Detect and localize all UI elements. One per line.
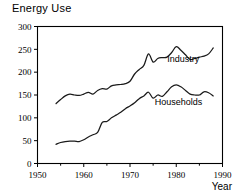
x-tick-label: 1960 — [75, 170, 94, 180]
y-tick-label: 150 — [18, 90, 32, 100]
x-tick-label: 1970 — [121, 170, 140, 180]
series-annotation-households: Households — [155, 97, 203, 107]
x-tick-label: 1990 — [214, 170, 233, 180]
y-tick-label: 100 — [18, 113, 32, 123]
y-tick-label: 0 — [27, 159, 32, 169]
chart-canvas: 050100150200250300 19501960197019801990 … — [0, 0, 240, 193]
x-tick-label: 1950 — [29, 170, 48, 180]
y-tick-label: 300 — [18, 22, 32, 32]
y-tick-label: 200 — [18, 67, 32, 77]
x-axis-title: Year — [212, 181, 233, 192]
series-annotation-industry: Industry — [167, 54, 200, 64]
y-tick-label: 250 — [18, 45, 32, 55]
y-axis-tick-labels: 050100150200250300 — [18, 22, 32, 169]
series-labels: IndustryHouseholds — [155, 54, 203, 107]
x-axis-tick-labels: 19501960197019801990 — [29, 170, 233, 180]
series-line-households — [56, 85, 213, 144]
x-tick-label: 1980 — [167, 170, 186, 180]
energy-use-chart: Energy Use 050100150200250300 1950196019… — [0, 0, 240, 193]
y-tick-label: 50 — [23, 136, 33, 146]
